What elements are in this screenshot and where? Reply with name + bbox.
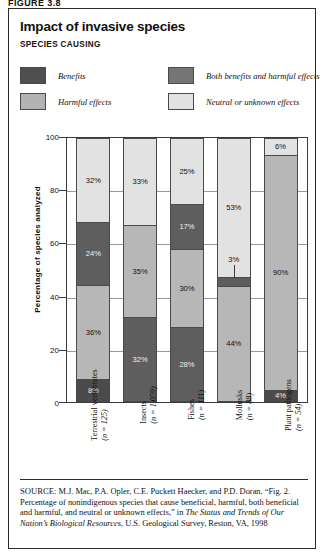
legend-swatch-benefits xyxy=(20,67,46,84)
label-leader-line xyxy=(234,265,235,278)
bar-segment-value: 33% xyxy=(133,178,148,186)
bar-segment[interactable]: 24% xyxy=(77,223,109,286)
x-axis-sample-size: (n = 125) xyxy=(100,369,110,440)
bar-segment-value: 90% xyxy=(273,269,288,277)
x-axis-label-text: Mollusks(n = 88) xyxy=(235,390,254,420)
x-axis-category-name: Fishes xyxy=(187,399,196,420)
y-tick-label: 100 xyxy=(46,133,59,142)
y-tick-mark xyxy=(59,297,66,298)
y-axis-ticks: 100806040200 xyxy=(27,137,59,403)
x-axis-sample-size: (n = 88) xyxy=(245,390,255,420)
x-axis-category-name: Mollusks xyxy=(235,390,244,420)
legend-item-neutral[interactable]: Neutral or unknown effects xyxy=(168,93,308,110)
figure-panel: Impact of invasive species SPECIES CAUSI… xyxy=(8,8,316,549)
legend-label-harmful: Harmful effects xyxy=(58,97,111,107)
bar-segment[interactable]: 33% xyxy=(124,139,156,226)
y-tick-mark xyxy=(59,190,66,191)
legend-item-both[interactable]: Both benefits and harmful effects xyxy=(168,67,308,84)
stacked-bar[interactable]: 53%3%44% xyxy=(217,138,251,402)
legend-item-harmful[interactable]: Harmful effects xyxy=(20,93,168,110)
source-prefix: SOURCE: xyxy=(20,486,56,496)
bar-segment-value: 35% xyxy=(133,268,148,276)
legend-item-benefits[interactable]: Benefits xyxy=(20,67,168,84)
stacked-bar[interactable]: 25%17%30%28% xyxy=(170,138,204,402)
stacked-bar[interactable]: 6%90%4% xyxy=(264,138,298,402)
bar-segment-value: 36% xyxy=(86,329,101,337)
y-axis-tickmarks xyxy=(59,137,66,403)
stacked-bar[interactable]: 32%24%36%8% xyxy=(76,138,110,402)
legend-swatch-harmful xyxy=(20,93,46,110)
bar-segment[interactable]: 6% xyxy=(265,139,297,156)
legend-label-both: Both benefits and harmful effects xyxy=(206,71,320,81)
y-tick-mark xyxy=(59,137,66,138)
bar-segment-value: 3% xyxy=(228,256,239,264)
stacked-bar[interactable]: 33%35%32% xyxy=(123,138,157,402)
bar-segment-value: 24% xyxy=(86,250,101,258)
y-tick-label: 60 xyxy=(50,239,59,248)
bar-segment-value: 53% xyxy=(226,204,241,212)
bar-segment[interactable]: 44% xyxy=(218,287,250,401)
bar-segment[interactable]: 25% xyxy=(171,139,203,205)
legend-row: Harmful effectsNeutral or unknown effect… xyxy=(20,93,308,110)
plot-area: 32%24%36%8%33%35%32%25%17%30%28%53%3%44%… xyxy=(66,137,308,403)
source-note: SOURCE: M.J. Mac, P.A. Opler, C.E. Pucke… xyxy=(20,479,308,529)
x-axis-label-text: Terrestrial vertebrates(n = 125) xyxy=(90,369,109,440)
x-axis-category-name: Plant pathogens xyxy=(284,379,293,431)
bar-segment-value: 44% xyxy=(226,340,241,348)
x-axis-sample-size: (n = 1,059) xyxy=(148,386,158,424)
x-axis-category-name: Insects xyxy=(139,401,148,424)
chart-legend: BenefitsBoth benefits and harmful effect… xyxy=(20,67,308,119)
x-axis-sample-size: (n = 111) xyxy=(196,390,206,420)
plot-wrapper: Percentage of species analyzed 100806040… xyxy=(9,137,317,437)
figure-number: FIGURE 3.8 xyxy=(8,0,61,8)
bar-group: 32%24%36%8%33%35%32%25%17%30%28%53%3%44%… xyxy=(67,138,307,402)
source-line-1: M.J. Mac, P.A. Opler, C.E. Puckett Haeck… xyxy=(56,487,262,496)
y-tick-mark xyxy=(59,402,66,403)
legend-swatch-neutral xyxy=(168,93,194,110)
x-axis-category-name: Terrestrial vertebrates xyxy=(90,369,99,440)
bar-segment-value: 30% xyxy=(179,285,194,293)
legend-swatch-both xyxy=(168,67,194,84)
bar-segment[interactable]: 36% xyxy=(77,286,109,380)
x-axis-label-text: Insects(n = 1,059) xyxy=(139,386,158,424)
legend-row: BenefitsBoth benefits and harmful effect… xyxy=(20,67,308,84)
page-title: Impact of invasive species xyxy=(20,19,185,34)
y-tick-label: 80 xyxy=(50,186,59,195)
x-axis-label-text: Fishes(n = 111) xyxy=(187,390,206,420)
y-tick-label: 20 xyxy=(50,345,59,354)
y-tick-mark xyxy=(59,350,66,351)
bar-segment[interactable]: 90% xyxy=(265,156,297,391)
bar-segment[interactable]: 3% xyxy=(218,278,250,287)
bar-segment[interactable]: 32% xyxy=(77,139,109,223)
bar-segment[interactable]: 35% xyxy=(124,226,156,318)
bar-segment-value: 17% xyxy=(179,223,194,231)
x-axis-sample-size: (n = 54) xyxy=(293,379,303,431)
x-axis-label-text: Plant pathogens(n = 54) xyxy=(284,379,303,431)
chart-subtitle: SPECIES CAUSING xyxy=(20,40,101,49)
legend-label-neutral: Neutral or unknown effects xyxy=(206,97,299,107)
source-line-5: Geological Survey, Reston, VA, 1998 xyxy=(142,519,267,528)
bar-segment-value: 32% xyxy=(86,177,101,185)
bar-segment[interactable]: 17% xyxy=(171,205,203,250)
y-tick-mark xyxy=(59,243,66,244)
bar-segment[interactable]: 30% xyxy=(171,250,203,329)
bar-segment-value: 32% xyxy=(133,356,148,364)
y-tick-label: 40 xyxy=(50,292,59,301)
bar-segment-value: 25% xyxy=(179,168,194,176)
bar-segment-value: 28% xyxy=(179,361,194,369)
bar-segment-value: 6% xyxy=(275,143,286,151)
legend-label-benefits: Benefits xyxy=(58,71,86,81)
source-line-4-tail: , U.S. xyxy=(121,519,140,528)
